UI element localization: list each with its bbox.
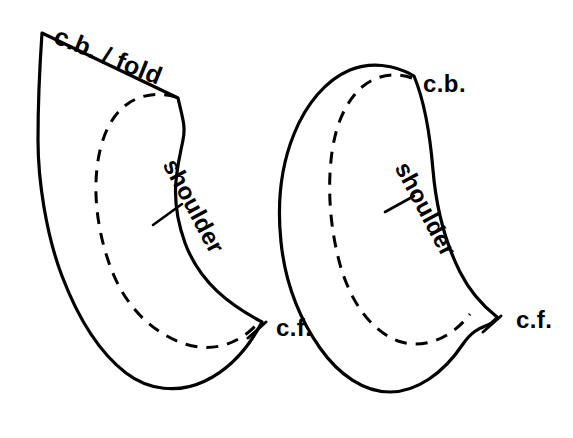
right-pattern-piece bbox=[280, 65, 501, 392]
right-piece-cut-line bbox=[280, 65, 497, 392]
pattern-drawing-canvas bbox=[0, 0, 573, 438]
right-piece-cb-label: c.b. bbox=[423, 72, 466, 96]
right-piece-seam-line bbox=[330, 75, 470, 344]
right-piece-cf-label: c.f. bbox=[516, 308, 552, 332]
left-piece-cf-label: c.f. bbox=[276, 316, 312, 340]
right-piece-cf-pointer bbox=[483, 316, 501, 332]
pattern-diagram: c.b. / fold shoulder c.f. c.b. shoulder … bbox=[0, 0, 573, 438]
